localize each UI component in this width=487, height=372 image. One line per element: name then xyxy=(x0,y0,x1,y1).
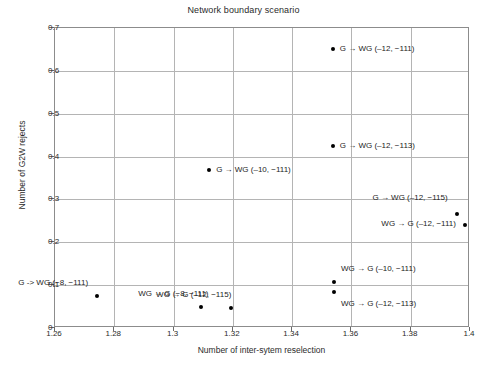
y-tick-label: 0 xyxy=(48,323,52,332)
gridline-vertical xyxy=(292,28,293,326)
y-tick-label: 0.7 xyxy=(48,23,59,32)
data-point-label: WG → G (‒12, −113) xyxy=(341,299,416,308)
data-point[interactable] xyxy=(207,168,211,172)
gridline-vertical xyxy=(351,28,352,326)
data-point[interactable] xyxy=(332,290,336,294)
x-axis-label: Number of inter-sytem reselection xyxy=(54,345,469,355)
chart-title: Network boundary scenario xyxy=(0,5,487,15)
data-point[interactable] xyxy=(229,306,233,310)
y-tick-label: 0.3 xyxy=(48,194,59,203)
data-point-label: G → WG (‒12, −111) xyxy=(340,44,415,53)
gridline-vertical xyxy=(174,28,175,326)
data-point[interactable] xyxy=(455,212,459,216)
data-point-label: WG → G (‒10, −111) xyxy=(341,264,416,273)
x-tick-label: 1.4 xyxy=(463,329,474,338)
data-point-label: G → WG (‒12, −115) xyxy=(372,193,447,202)
plot-area xyxy=(54,27,469,327)
data-point[interactable] xyxy=(199,305,203,309)
y-axis-label: Number of G2W rejects xyxy=(17,80,27,250)
y-tick-label: 0.5 xyxy=(48,108,59,117)
data-point[interactable] xyxy=(95,294,99,298)
x-tick-label: 1.36 xyxy=(343,329,359,338)
data-point-label: G -> WG (−8, −111) xyxy=(18,277,88,286)
x-tick-label: 1.38 xyxy=(402,329,418,338)
gridline-horizontal xyxy=(55,242,468,243)
x-tick-label: 1.3 xyxy=(167,329,178,338)
gridline-vertical xyxy=(114,28,115,326)
gridline-horizontal xyxy=(55,71,468,72)
data-point[interactable] xyxy=(463,223,467,227)
gridline-horizontal xyxy=(55,157,468,158)
gridline-vertical xyxy=(411,28,412,326)
gridline-horizontal xyxy=(55,285,468,286)
data-point[interactable] xyxy=(331,47,335,51)
data-point-label: WG → G (‒12, −115) xyxy=(156,289,231,298)
data-point[interactable] xyxy=(332,280,336,284)
data-point-label: WG → G (‒12, −111) xyxy=(381,219,456,228)
x-tick-label: 1.32 xyxy=(224,329,240,338)
y-tick-label: 0.2 xyxy=(48,237,59,246)
gridline-horizontal xyxy=(55,114,468,115)
data-point-label: G → WG (‒10, −111) xyxy=(216,164,291,173)
scatter-chart-figure: Network boundary scenario Number of G2W … xyxy=(0,0,487,372)
x-tick-label: 1.28 xyxy=(105,329,121,338)
data-point-label: G → WG (‒12, −113) xyxy=(340,140,415,149)
x-tick-label: 1.34 xyxy=(283,329,299,338)
data-point[interactable] xyxy=(331,144,335,148)
gridline-vertical xyxy=(233,28,234,326)
y-tick-label: 0.6 xyxy=(48,65,59,74)
y-tick-label: 0.4 xyxy=(48,151,59,160)
